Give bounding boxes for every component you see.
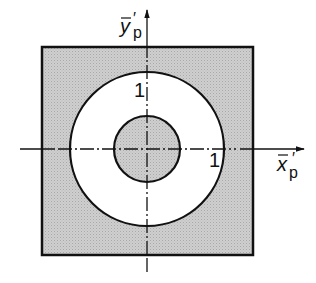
cross-section-diagram: y p ′ x p ′ 1 1 xyxy=(0,0,316,283)
svg-text:′: ′ xyxy=(133,10,136,27)
svg-text:y: y xyxy=(118,15,131,37)
x-axis-label: x p ′ xyxy=(276,150,298,181)
svg-text:x: x xyxy=(276,153,288,175)
svg-text:′: ′ xyxy=(292,150,295,167)
y-axis-label: y p ′ xyxy=(118,10,142,41)
ring-label-top: 1 xyxy=(134,79,145,101)
ring-label-right: 1 xyxy=(209,149,220,171)
